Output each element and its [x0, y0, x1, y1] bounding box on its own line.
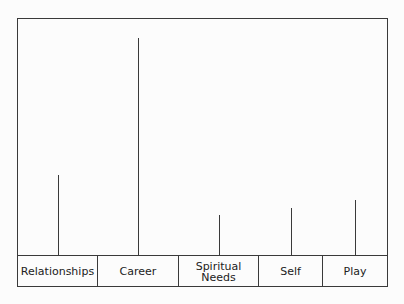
bar-self: [291, 208, 292, 255]
bar-relationships: [58, 175, 59, 255]
label-relationships: Relationships: [18, 256, 98, 287]
label-self: Self: [259, 256, 323, 287]
bar-play: [355, 200, 356, 255]
category-label-row: Relationships Career Spiritual Needs Sel…: [18, 255, 387, 287]
label-spiritual-needs: Spiritual Needs: [179, 256, 259, 287]
chart-frame: Relationships Career Spiritual Needs Sel…: [17, 18, 388, 287]
label-play: Play: [323, 256, 387, 287]
bar-career: [138, 38, 139, 255]
label-career: Career: [98, 256, 179, 287]
label-spiritual-line2: Needs: [201, 272, 235, 283]
bar-spiritual-needs: [219, 215, 220, 255]
label-spiritual-line1: Spiritual: [196, 261, 242, 272]
